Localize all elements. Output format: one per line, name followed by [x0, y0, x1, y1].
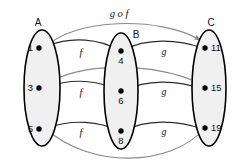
g-label-2: g: [162, 86, 167, 97]
set-c-group: C 11 15 19: [192, 17, 226, 146]
set-b-element-6-label: 6: [118, 95, 123, 106]
set-b-element-4-dot: [118, 48, 123, 53]
set-a-element-5-dot: [36, 126, 41, 131]
composition-label: g o f: [110, 8, 131, 19]
set-a-label: A: [35, 17, 42, 28]
set-b-element-8-label: 8: [118, 135, 123, 146]
set-c-element-15-dot: [202, 85, 207, 90]
set-c-element-19-dot: [202, 125, 207, 130]
diagram-canvas: A 1 3 5 B 4 6 8 C 11 15: [0, 0, 238, 164]
set-a-element-1-label: 1: [28, 42, 33, 53]
set-c-element-11-label: 11: [211, 42, 221, 53]
set-a-group: A 1 3 5: [24, 17, 60, 146]
function-composition-diagram: A 1 3 5 B 4 6 8 C 11 15: [0, 0, 238, 164]
set-c-label: C: [207, 17, 214, 28]
f-label-3: f: [80, 127, 84, 138]
f-label-1: f: [80, 47, 84, 58]
f-label-2: f: [80, 87, 84, 98]
set-a-element-3-dot: [36, 85, 41, 90]
set-b-group: B 4 6 8: [104, 29, 140, 149]
set-a-element-1-dot: [36, 45, 41, 50]
set-a-element-3-label: 3: [28, 82, 33, 93]
set-c-element-15-label: 15: [211, 82, 222, 93]
g-label-1: g: [162, 46, 167, 57]
g-label-3: g: [162, 126, 167, 137]
set-c-element-19-label: 19: [211, 122, 222, 133]
set-c-element-11-dot: [202, 45, 207, 50]
set-b-element-4-label: 4: [118, 55, 123, 66]
set-b-element-6-dot: [118, 88, 123, 93]
set-a-element-5-label: 5: [28, 123, 33, 134]
set-b-element-8-dot: [118, 128, 123, 133]
f-arrow-1-to-4: [47, 40, 118, 50]
set-b-label: B: [133, 29, 140, 40]
